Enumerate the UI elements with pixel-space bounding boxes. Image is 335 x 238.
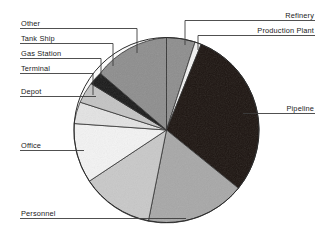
leader-line-production-plant	[198, 36, 315, 51]
label-gas-station: Gas Station	[21, 49, 61, 58]
label-production-plant: Production Plant	[257, 26, 314, 35]
label-personnel: Personnel	[21, 209, 56, 218]
label-pipeline: Pipeline	[287, 104, 315, 113]
label-depot: Depot	[21, 87, 41, 96]
pie-slices	[74, 37, 260, 223]
label-office: Office	[21, 141, 41, 150]
label-terminal: Terminal	[21, 64, 50, 73]
label-other: Other	[21, 19, 41, 28]
chart-canvas: Other Tank Ship Gas Station Terminal Dep…	[0, 0, 335, 238]
label-tank-ship: Tank Ship	[21, 34, 55, 43]
label-refinery: Refinery	[285, 11, 314, 20]
pie-chart-figure: Other Tank Ship Gas Station Terminal Dep…	[0, 0, 335, 238]
